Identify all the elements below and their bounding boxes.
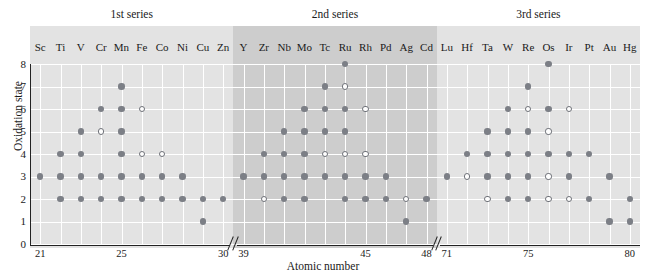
element-label-cr: Cr [91,41,111,53]
data-point-re-7 [525,83,531,89]
data-point-ru-5 [342,128,348,134]
data-point-ag-1 [403,218,409,224]
data-point-os-3 [545,173,551,179]
element-label-fe: Fe [132,41,152,53]
data-point-fe-6 [139,106,145,112]
data-point-au-3 [606,173,612,179]
element-label-v: V [71,41,91,53]
oxidation-state-chart: 1st series 2nd series 3rd series ScTiVCr… [0,0,646,278]
element-label-lu: Lu [437,41,457,53]
y-axis-title: Oxidation state [12,56,24,176]
data-point-nb-4 [281,151,287,157]
data-point-v-2 [78,196,84,202]
data-point-ta-5 [484,128,490,134]
data-point-zn-2 [220,196,226,202]
gridline-vertical [223,64,224,244]
data-point-cr-2 [98,196,104,202]
data-point-ta-2 [484,196,490,202]
data-point-v-5 [78,128,84,134]
element-label-cu: Cu [193,41,213,53]
data-point-mn-4 [118,151,124,157]
data-point-v-3 [78,173,84,179]
data-point-cr-6 [98,106,104,112]
data-point-w-6 [505,106,511,112]
data-point-os-8 [545,61,551,67]
data-point-mo-3 [301,173,307,179]
gridline-vertical [244,64,245,244]
data-point-co-2 [159,196,165,202]
gridline-vertical [447,64,448,244]
gridline-vertical [386,64,387,244]
data-point-cu-1 [200,218,206,224]
data-point-cu-2 [200,196,206,202]
data-point-hf-3 [464,173,470,179]
data-point-fe-3 [139,173,145,179]
data-point-rh-4 [362,151,368,157]
data-point-ir-3 [566,173,572,179]
data-point-ru-2 [342,196,348,202]
data-point-re-3 [525,173,531,179]
data-point-pt-4 [586,151,592,157]
data-point-pd-3 [383,173,389,179]
element-label-pt: Pt [579,41,599,53]
gridline-vertical [183,64,184,244]
data-point-ti-2 [57,196,63,202]
x-tick-45: 45 [352,248,380,259]
series-title-3rd: 3rd series [437,8,640,20]
data-point-ir-6 [566,106,572,112]
data-point-os-5 [545,128,551,134]
data-point-ru-7 [342,83,348,89]
element-label-os: Os [538,41,558,53]
data-point-ru-8 [342,61,348,67]
data-point-co-3 [159,173,165,179]
plot-area [30,64,640,244]
data-point-tc-3 [322,173,328,179]
element-label-tc: Tc [315,41,335,53]
element-label-ta: Ta [477,41,497,53]
data-point-mo-5 [301,128,307,134]
x-tick-80: 80 [616,248,644,259]
data-point-hf-4 [464,151,470,157]
data-point-ta-3 [484,173,490,179]
data-point-co-4 [159,151,165,157]
element-label-hf: Hf [457,41,477,53]
element-label-co: Co [152,41,172,53]
x-tick-21: 21 [26,248,54,259]
y-tick-1: 1 [8,216,26,227]
series-title-1st: 1st series [30,8,233,20]
element-label-y: Y [233,41,253,53]
element-label-zn: Zn [213,41,233,53]
data-point-cr-5 [98,128,104,134]
data-point-mn-5 [118,128,124,134]
data-point-nb-5 [281,128,287,134]
data-point-lu-3 [444,173,450,179]
y-axis-line [30,64,31,245]
element-label-ti: Ti [50,41,70,53]
data-point-hg-2 [627,196,633,202]
element-label-au: Au [599,41,619,53]
element-label-ag: Ag [396,41,416,53]
x-axis-segment-series-3 [440,245,640,246]
data-point-ni-2 [179,196,185,202]
data-point-ti-4 [57,151,63,157]
data-point-ni-3 [179,173,185,179]
data-point-ag-2 [403,196,409,202]
data-point-tc-4 [322,151,328,157]
data-point-nb-3 [281,173,287,179]
data-point-rh-3 [362,173,368,179]
data-point-w-2 [505,196,511,202]
x-axis-segment-series-2 [237,245,433,246]
data-point-nb-2 [281,196,287,202]
element-label-hg: Hg [620,41,640,53]
data-point-mn-3 [118,173,124,179]
data-point-ru-6 [342,106,348,112]
data-point-ru-4 [342,151,348,157]
element-label-rh: Rh [355,41,375,53]
data-point-re-5 [525,128,531,134]
data-point-rh-2 [362,196,368,202]
element-label-re: Re [518,41,538,53]
x-axis-title: Atomic number [0,260,646,272]
data-point-fe-2 [139,196,145,202]
gridline-vertical [427,64,428,244]
gridline-vertical [101,64,102,244]
